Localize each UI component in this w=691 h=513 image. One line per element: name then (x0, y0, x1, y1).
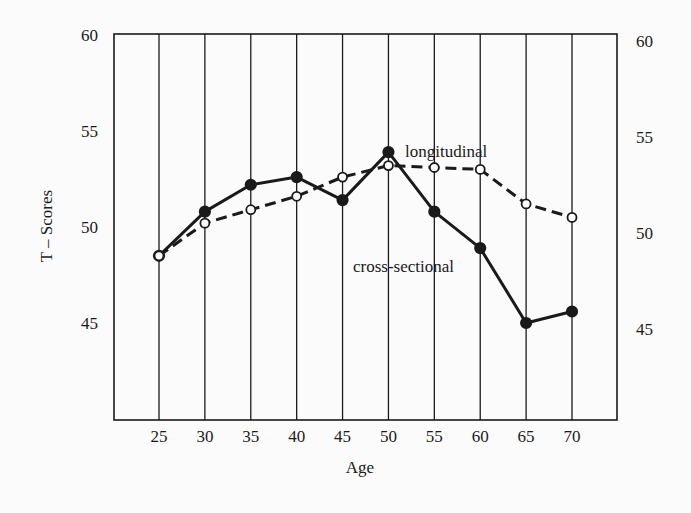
filled-circle-marker (429, 206, 439, 216)
open-circle-marker (522, 199, 531, 208)
y-tick-label-right: 50 (636, 224, 653, 243)
open-circle-marker (568, 213, 577, 222)
y-tick-label-left: 55 (81, 122, 98, 141)
y-tick-label-left: 50 (81, 218, 98, 237)
y-tick-label-right: 55 (636, 128, 653, 147)
open-circle-marker (246, 205, 255, 214)
open-circle-marker (200, 219, 209, 228)
x-tick-label: 30 (196, 427, 213, 446)
cross-sectional-line (159, 152, 572, 323)
open-circle-marker (338, 173, 347, 182)
filled-circle-marker (567, 306, 577, 316)
y-tick-label-right: 60 (636, 32, 653, 51)
series-layer (154, 147, 577, 328)
filled-circle-marker (337, 195, 347, 205)
open-circle-marker (384, 161, 393, 170)
series-cross-sectional (154, 147, 577, 328)
x-tick-label: 40 (288, 427, 305, 446)
x-tick-label: 60 (472, 427, 489, 446)
x-axis-title: Age (346, 458, 374, 477)
open-circle-marker (292, 192, 301, 201)
y-tick-label-left: 60 (81, 26, 98, 45)
annotation-cross-sectional: cross-sectional (353, 257, 454, 276)
x-axis-ticks: 25303540455055606570 (151, 427, 581, 446)
x-tick-label: 70 (564, 427, 581, 446)
filled-circle-marker (383, 147, 393, 157)
longitudinal-line (159, 166, 572, 256)
open-circle-marker (476, 165, 485, 174)
filled-circle-marker (200, 206, 210, 216)
x-tick-label: 25 (151, 427, 168, 446)
x-tick-label: 50 (380, 427, 397, 446)
annotation-longitudinal: longitudinal (405, 142, 487, 161)
x-tick-label: 65 (518, 427, 535, 446)
y-axis-left-ticks: 45505560 (81, 26, 98, 333)
vertical-gridlines (159, 34, 572, 420)
filled-circle-marker (246, 180, 256, 190)
y-axis-title: T – Scores (37, 190, 56, 262)
filled-circle-marker (521, 318, 531, 328)
x-tick-label: 45 (334, 427, 351, 446)
x-tick-label: 55 (426, 427, 443, 446)
filled-circle-marker (291, 172, 301, 182)
y-tick-label-right: 45 (636, 320, 653, 339)
filled-circle-marker (475, 243, 485, 253)
line-chart: 25303540455055606570 45505560 45505560 A… (0, 0, 691, 513)
open-circle-marker (430, 163, 439, 172)
x-tick-label: 35 (242, 427, 259, 446)
y-tick-label-left: 45 (81, 314, 98, 333)
open-circle-marker (155, 251, 164, 260)
y-axis-right-ticks: 45505560 (636, 32, 653, 339)
